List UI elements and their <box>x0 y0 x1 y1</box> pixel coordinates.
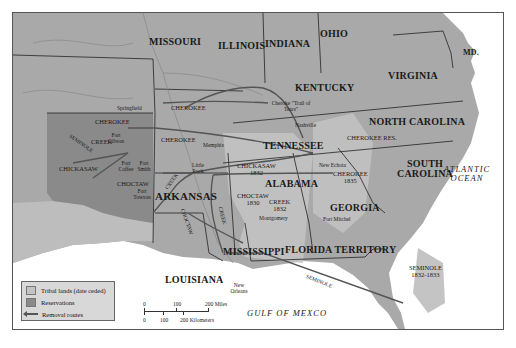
route-label-cherokee-fort-gibson: CHEROKEE <box>161 137 196 144</box>
map-legend: Tribal lands (date ceded) Reservations R… <box>21 281 115 321</box>
state-label-mississippi: MISSISSIPPI <box>223 247 285 257</box>
city-fort-towson: Fort Towson <box>131 189 153 200</box>
tribe-label-cherokee-1835: CHEROKEE1835 <box>333 171 368 184</box>
arrow-left-icon <box>26 313 38 315</box>
tribal-lands-swatch-icon <box>26 286 36 295</box>
city-new-echota: New Echota <box>319 163 346 169</box>
state-label-tennessee: TENNESSEE <box>263 141 324 151</box>
state-label-illinois: ILLINOIS <box>218 41 265 51</box>
tribe-label-chickasaw-1832: CHICKASAW1832 <box>237 163 276 176</box>
city-memphis: Memphis <box>203 143 224 149</box>
state-label-virginia: VIRGINIA <box>388 71 438 81</box>
tribe-label-creek-1832: CREEK1832 <box>269 199 290 212</box>
state-label-maryland: MD. <box>463 49 479 57</box>
city-new-orleans: New Orleans <box>229 283 249 294</box>
city-fort-mitchel: Fort Mitchel <box>323 217 351 223</box>
route-label-cherokee-springfield: CHEROKEE <box>171 105 206 112</box>
city-fort-smith: Fort Smith <box>135 161 153 172</box>
city-fort-coffee: Fort Coffee <box>117 161 135 172</box>
water-label-gulf: GULF OF MEXCO <box>247 309 327 318</box>
tribe-label-seminole-1832: SEMINOLE1832-1833 <box>409 265 442 278</box>
state-label-kentucky: KENTUCKY <box>295 83 354 93</box>
state-label-georgia: GEORGIA <box>330 203 380 213</box>
route-label-trail-of-tears: Cheroke "Trail of Tears" <box>271 101 311 112</box>
reservations-swatch-icon <box>26 298 36 307</box>
tribe-label-choctaw-1830: CHOCTAW1830 <box>237 193 269 206</box>
map-frame: MISSOURI ILLINOIS INDIANA OHIO KENTUCKY … <box>12 12 504 330</box>
tribe-label-cherokee-res: CHEROKEE RES. <box>347 135 397 142</box>
state-label-ohio: OHIO <box>320 29 348 39</box>
state-label-missouri: MISSOURI <box>149 37 201 47</box>
tribe-label-choctaw: CHOCTAW <box>117 181 149 188</box>
state-label-louisiana: LOUISIANA <box>165 275 223 285</box>
city-little-rock: Little Rock <box>189 163 207 174</box>
tribe-label-chickasaw: CHICKASAW <box>59 166 98 173</box>
scale-bar: 0 100 200 Miles 0 100 200 Kilometers <box>143 301 233 327</box>
legend-item-reservations: Reservations <box>26 296 110 308</box>
tribe-label-cherokee: CHEROKEE <box>95 119 130 126</box>
state-label-alabama: ALABAMA <box>265 179 318 189</box>
city-springfield: Springfield <box>117 106 142 112</box>
legend-item-removal-routes: Removal routes <box>26 308 110 320</box>
water-label-atlantic: ATLANTIC OCEAN <box>439 165 495 182</box>
legend-item-tribal-lands: Tribal lands (date ceded) <box>26 284 110 296</box>
state-label-florida-territory: FLORIDA TERRITORY <box>285 245 396 255</box>
state-label-indiana: INDIANA <box>265 39 310 49</box>
city-montgomery: Montgomery <box>259 216 288 222</box>
state-label-north-carolina: NORTH CAROLINA <box>369 117 465 127</box>
state-label-arkansas: ARKANSAS <box>155 191 217 202</box>
city-nashville: Nashville <box>295 123 316 129</box>
city-fort-gibson: Fort Gibson <box>105 133 127 144</box>
